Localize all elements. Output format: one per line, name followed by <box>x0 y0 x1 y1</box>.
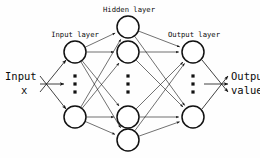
io-arrows <box>40 60 228 109</box>
connection-edge <box>86 122 115 135</box>
neuron-node <box>182 106 204 128</box>
connection-edge <box>82 63 119 108</box>
connection-edge <box>136 60 183 107</box>
ellipsis-dot <box>191 82 194 85</box>
ellipsis-dot <box>126 90 129 93</box>
neuron-node <box>117 106 139 128</box>
input-arrow <box>40 60 66 92</box>
output-layer-label: Output layer <box>163 31 225 39</box>
ellipsis-dot <box>73 90 76 93</box>
connection-edge <box>136 62 183 109</box>
connection-edge <box>82 61 119 106</box>
neuron-node <box>117 41 139 63</box>
output-label-line2: value <box>231 85 260 96</box>
input-label-line2: x <box>21 85 27 96</box>
hidden-layer-label: Hidden layer <box>99 6 159 14</box>
ellipsis-dot <box>126 74 129 77</box>
neuron-node <box>182 41 204 63</box>
neuron-node <box>64 106 86 128</box>
connection-edge <box>135 63 185 130</box>
neuron-node <box>64 41 86 63</box>
neuron-node <box>117 16 139 38</box>
neuron-node <box>117 129 139 151</box>
ellipsis-dot <box>191 74 194 77</box>
connection-edge <box>81 62 121 128</box>
ellipsis-dot <box>73 82 76 85</box>
ellipsis-dot <box>73 74 76 77</box>
input-label-line1: Input <box>5 71 37 82</box>
output-label-line1: Output <box>231 71 260 82</box>
neural-network-diagram: Hidden layer Input layer Output layer In… <box>0 0 260 158</box>
input-layer-label: Input layer <box>46 31 104 39</box>
connection-edge <box>135 36 185 105</box>
ellipsis-dot <box>191 90 194 93</box>
output-arrow <box>202 60 228 92</box>
input-arrow <box>40 76 66 109</box>
connection-edge <box>139 122 180 136</box>
network-canvas <box>0 0 260 158</box>
connection-edge <box>81 39 121 107</box>
ellipsis-dot <box>126 82 129 85</box>
output-arrow <box>202 76 228 109</box>
